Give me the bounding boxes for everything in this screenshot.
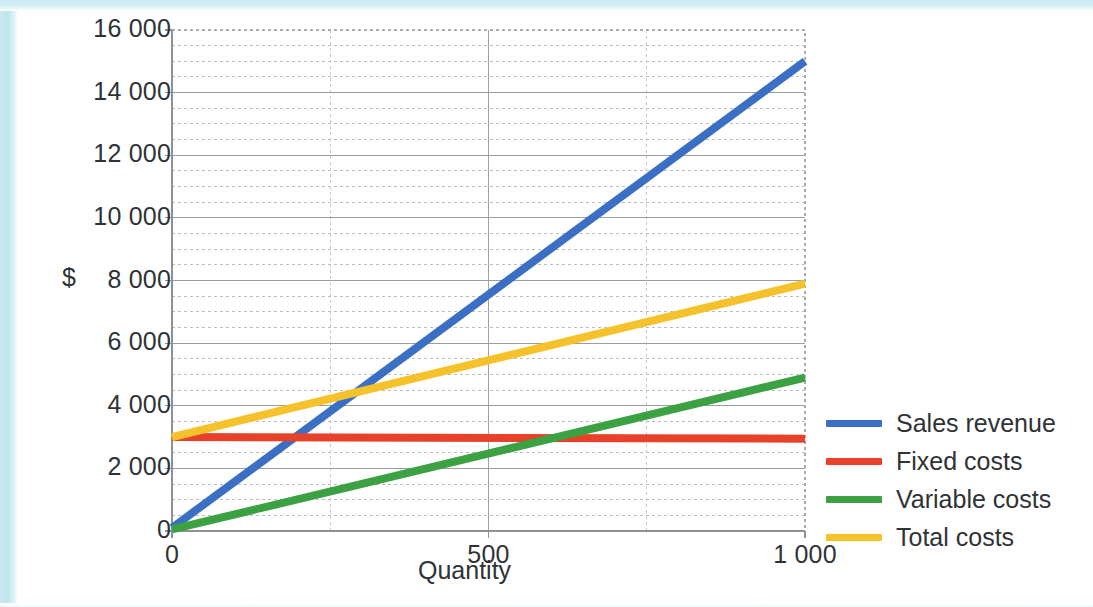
y-axis-title: $ [62,263,76,292]
y-tick-label: 4 000 [31,390,171,419]
y-tick-label: 12 000 [31,139,171,168]
legend-swatch-icon [826,420,882,427]
legend-item-label: Total costs [896,523,1014,552]
y-tick-label: 14 000 [31,77,171,106]
legend-swatch-icon [826,496,882,503]
legend-item-fixed-costs[interactable]: Fixed costs [826,442,1076,480]
x-axis-title: Quantity [418,556,511,585]
legend-item-label: Fixed costs [896,447,1022,476]
y-tick-label: 8 000 [31,265,171,294]
x-tick-label: 0 [92,540,252,569]
legend-item-label: Variable costs [896,485,1051,514]
legend-item-label: Sales revenue [896,409,1056,438]
chart-page: 02 0004 0006 0008 00010 00012 00014 0001… [0,0,1093,607]
series-line-fixed-costs [172,437,805,439]
legend-swatch-icon [826,534,882,541]
legend-item-sales-revenue[interactable]: Sales revenue [826,404,1076,442]
legend-item-total-costs[interactable]: Total costs [826,518,1076,556]
y-tick-label: 2 000 [31,452,171,481]
y-tick-label: 6 000 [31,327,171,356]
legend-item-variable-costs[interactable]: Variable costs [826,480,1076,518]
legend-swatch-icon [826,458,882,465]
chart-legend: Sales revenueFixed costsVariable costsTo… [826,404,1076,556]
y-tick-label: 16 000 [31,14,171,43]
y-tick-label: 10 000 [31,202,171,231]
